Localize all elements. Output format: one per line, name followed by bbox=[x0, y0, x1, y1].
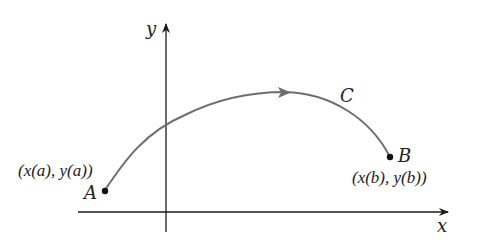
point-a-label: A bbox=[82, 182, 97, 203]
point-b-coordinates: (x(b), y(b)) bbox=[352, 168, 427, 187]
point-a-coordinates: (x(a), y(a)) bbox=[18, 161, 93, 180]
curve-label: C bbox=[340, 85, 354, 106]
point-a bbox=[102, 188, 108, 194]
point-b-label: B bbox=[397, 145, 411, 166]
x-axis-label: x bbox=[437, 215, 447, 236]
point-b bbox=[387, 154, 393, 160]
curve-c bbox=[105, 92, 390, 190]
parametric-curve-diagram: y x C A B (x(a), y(a)) (x(b), y(b)) bbox=[0, 0, 478, 242]
y-axis-label: y bbox=[145, 18, 157, 39]
